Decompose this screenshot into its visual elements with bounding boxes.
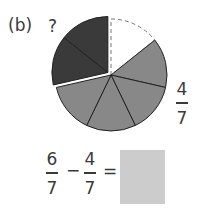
pie-group-unknown [52, 17, 108, 85]
fraction-bar [46, 172, 58, 174]
fraction-pie-chart [0, 0, 198, 215]
second-denominator: 7 [85, 179, 96, 197]
side-fraction-denominator: 7 [177, 109, 188, 127]
side-fraction: 4 7 [176, 80, 188, 127]
second-numerator: 4 [85, 150, 96, 168]
equals-sign: = [103, 161, 117, 181]
second-fraction: 4 7 [84, 150, 96, 197]
side-fraction-numerator: 4 [177, 80, 188, 98]
answer-box[interactable] [120, 150, 165, 204]
first-fraction: 6 7 [46, 150, 58, 197]
first-denominator: 7 [47, 179, 58, 197]
fraction-bar [84, 172, 96, 174]
fraction-bar [176, 102, 188, 104]
minus-sign: − [66, 160, 80, 180]
first-numerator: 6 [47, 150, 58, 168]
